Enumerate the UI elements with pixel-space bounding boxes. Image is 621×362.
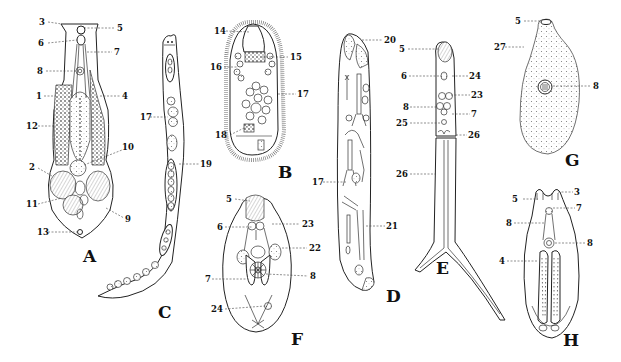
figure-f-label-8: 8 (310, 271, 316, 281)
figure-b: 14 15 16 17 18 B (210, 22, 309, 182)
figure-b-label-17: 17 (297, 89, 309, 99)
figure-h: 5 3 7 8 8 4 H (499, 187, 593, 350)
figure-h-label-6: 7 (576, 203, 582, 213)
figure-b-label-14: 14 (214, 26, 226, 36)
figure-e-tail (415, 138, 505, 320)
figure-c-label-17: 17 (140, 112, 152, 122)
figure-e-label-7: 7 (471, 109, 477, 119)
figure-d-label-21: 21 (386, 221, 398, 231)
figure-a-label-3: 3 (39, 17, 45, 27)
figure-f-label-5: 5 (226, 194, 232, 204)
figure-b-label-15: 15 (290, 52, 302, 62)
biology-plate: 3 5 6 7 8 1 4 12 10 2 11 9 13 A (0, 0, 621, 362)
figure-a-label-6: 6 (38, 38, 44, 48)
figure-f-letter: F (291, 329, 303, 349)
figure-d-label-20: 20 (384, 35, 396, 45)
figure-b-letter: B (278, 162, 292, 182)
figure-h-label-7: 8 (506, 218, 512, 228)
figure-g-label-8: 8 (593, 81, 599, 91)
figure-a-label-5: 5 (117, 23, 123, 33)
figure-f-label-7: 7 (205, 274, 211, 284)
figure-d-body (337, 34, 374, 291)
figure-h-label-4: 4 (499, 256, 505, 266)
figure-c-letter: C (158, 302, 172, 322)
figure-a-label-7: 7 (114, 47, 120, 57)
figure-h-label-5: 5 (512, 194, 518, 204)
figure-e-label-23: 24 (469, 71, 481, 81)
figure-g-label-27: 27 (494, 42, 506, 52)
figure-d-label-17: 17 (312, 177, 324, 187)
figure-g-letter: G (565, 150, 580, 170)
figure-e-letter: E (436, 258, 449, 278)
figure-b-label-18: 18 (215, 130, 227, 140)
figure-e-label-22: 23 (471, 90, 483, 100)
figure-b-label-16: 16 (210, 62, 222, 72)
figure-c: 17 19 C (98, 35, 212, 322)
figure-a-label-8: 8 (37, 66, 43, 76)
figure-a-label-1: 1 (36, 91, 42, 101)
figure-h-letter: H (563, 330, 579, 350)
figure-a-label-9: 9 (125, 214, 131, 224)
figure-g: 5 27 8 G (494, 16, 599, 170)
figure-e-label-5: 5 (399, 44, 405, 54)
figure-a: 3 5 6 7 8 1 4 12 10 2 11 9 13 A (26, 17, 134, 266)
figure-d: 20 17 21 D (312, 34, 401, 306)
figure-h-label-3: 3 (574, 187, 580, 197)
figure-f-label-22: 22 (309, 243, 321, 253)
figure-e: 5 6 24 23 8 7 25 26 26 E (396, 42, 505, 320)
figure-f-label-23: 23 (302, 219, 314, 229)
figure-d-letter: D (386, 286, 401, 306)
figure-e-label-24: 25 (396, 118, 408, 128)
figure-f-label-6: 6 (217, 222, 223, 232)
figure-e-label-26: 26 (396, 169, 408, 179)
figure-f: 5 6 23 22 7 8 24 F (205, 194, 321, 349)
figure-e-label-8: 8 (403, 102, 409, 112)
figure-h-label-8: 8 (587, 238, 593, 248)
figure-a-label-4: 4 (122, 91, 128, 101)
figure-g-label-5: 5 (515, 16, 521, 26)
figure-c-label-19: 19 (200, 159, 212, 169)
figure-e-label-6: 6 (401, 71, 407, 81)
figure-a-label-13: 13 (37, 227, 49, 237)
figure-a-label-2: 2 (29, 162, 35, 172)
figure-a-letter: A (82, 246, 97, 266)
figure-a-label-10: 10 (122, 142, 134, 152)
figure-e-label-25: 26 (468, 130, 480, 140)
figure-f-label-24: 24 (211, 304, 223, 314)
figure-a-label-11: 11 (26, 199, 38, 209)
figure-a-label-12: 12 (26, 121, 38, 131)
